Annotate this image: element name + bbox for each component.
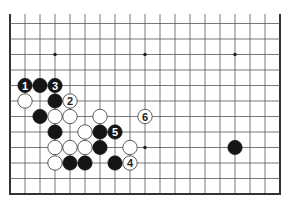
white-stone — [63, 140, 77, 154]
white-stone — [93, 109, 107, 123]
white-stone — [123, 140, 137, 154]
white-stone — [18, 94, 32, 108]
stone-disc — [63, 140, 77, 154]
stone-disc — [93, 109, 107, 123]
black-stone — [93, 140, 107, 154]
black-stone — [78, 156, 92, 170]
star-point — [143, 53, 147, 57]
stone-disc — [78, 140, 92, 154]
stone-disc — [48, 109, 62, 123]
stone-disc — [93, 125, 107, 139]
white-stone — [48, 156, 62, 170]
star-point — [143, 146, 147, 150]
move-number: 4 — [127, 157, 134, 169]
white-stone — [78, 140, 92, 154]
stone-disc — [78, 156, 92, 170]
white-stone — [78, 125, 92, 139]
black-stone — [108, 156, 122, 170]
stone-disc — [33, 109, 47, 123]
stone-disc — [48, 140, 62, 154]
black-stone — [33, 109, 47, 123]
black-stone — [33, 78, 47, 92]
stone-disc — [78, 125, 92, 139]
black-stone — [228, 140, 242, 154]
stone-disc — [48, 94, 62, 108]
go-board: 132654 — [0, 0, 288, 206]
move-number: 3 — [52, 80, 58, 92]
stone-disc — [48, 156, 62, 170]
black-stone: 5 — [108, 125, 122, 139]
white-stone — [48, 140, 62, 154]
stone-disc — [63, 156, 77, 170]
black-stone — [63, 156, 77, 170]
black-stone: 3 — [48, 78, 62, 92]
white-stone — [48, 109, 62, 123]
white-stone: 6 — [138, 109, 152, 123]
black-stone — [48, 125, 62, 139]
star-point — [53, 53, 57, 57]
move-number: 1 — [22, 80, 28, 92]
stone-disc — [33, 78, 47, 92]
stone-disc — [108, 156, 122, 170]
stone-disc — [18, 94, 32, 108]
black-stone: 1 — [18, 78, 32, 92]
black-stone — [93, 125, 107, 139]
move-number: 2 — [67, 95, 73, 107]
stone-disc — [93, 140, 107, 154]
move-number: 5 — [112, 126, 118, 138]
white-stone: 2 — [63, 94, 77, 108]
star-point — [233, 53, 237, 57]
white-stone: 4 — [123, 156, 137, 170]
black-stone — [48, 94, 62, 108]
move-number: 6 — [142, 111, 148, 123]
white-stone — [63, 109, 77, 123]
stone-disc — [63, 109, 77, 123]
stone-disc — [123, 140, 137, 154]
stone-disc — [48, 125, 62, 139]
stone-disc — [228, 140, 242, 154]
